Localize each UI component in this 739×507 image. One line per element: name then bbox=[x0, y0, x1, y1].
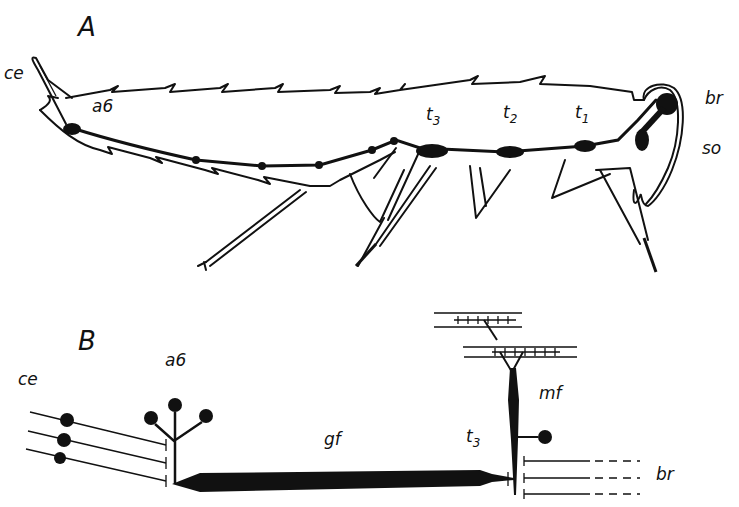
ventral-nerve-cord bbox=[72, 100, 656, 166]
label-a6: a6 bbox=[92, 96, 113, 116]
panel-a: A bbox=[4, 12, 724, 272]
label-br-b: br bbox=[656, 464, 675, 484]
ganglion bbox=[390, 137, 398, 145]
abdomen-underside bbox=[40, 110, 395, 186]
panel-b: B ce a6 gf t3 mf br bbox=[18, 313, 675, 499]
label-t3-b: t3 bbox=[466, 426, 480, 450]
ganglion bbox=[368, 146, 376, 154]
label-mf: mf bbox=[539, 383, 565, 403]
ganglion-so bbox=[635, 129, 649, 151]
neuroanatomy-figure: A bbox=[0, 0, 739, 507]
label-br: br bbox=[705, 88, 724, 108]
ganglion-t1 bbox=[574, 140, 596, 152]
motor-fiber bbox=[508, 368, 519, 495]
label-t2: t2 bbox=[503, 102, 517, 126]
label-gf: gf bbox=[324, 429, 344, 449]
ganglion-t2 bbox=[496, 146, 524, 158]
ganglion bbox=[192, 156, 200, 164]
label-so: so bbox=[702, 138, 721, 158]
cercus bbox=[32, 58, 72, 125]
label-t1: t1 bbox=[575, 102, 589, 126]
panel-a-label: A bbox=[76, 12, 96, 42]
ganglion bbox=[258, 162, 266, 170]
label-a6-b: a6 bbox=[165, 350, 186, 370]
ganglion bbox=[315, 161, 323, 169]
ganglion-a6 bbox=[63, 123, 81, 135]
giant-fiber bbox=[172, 470, 514, 492]
label-ce: ce bbox=[4, 63, 24, 83]
ganglion-t3 bbox=[416, 144, 448, 158]
label-t3: t3 bbox=[426, 104, 440, 128]
label-ce-b: ce bbox=[18, 369, 38, 389]
panel-b-label: B bbox=[78, 326, 96, 356]
